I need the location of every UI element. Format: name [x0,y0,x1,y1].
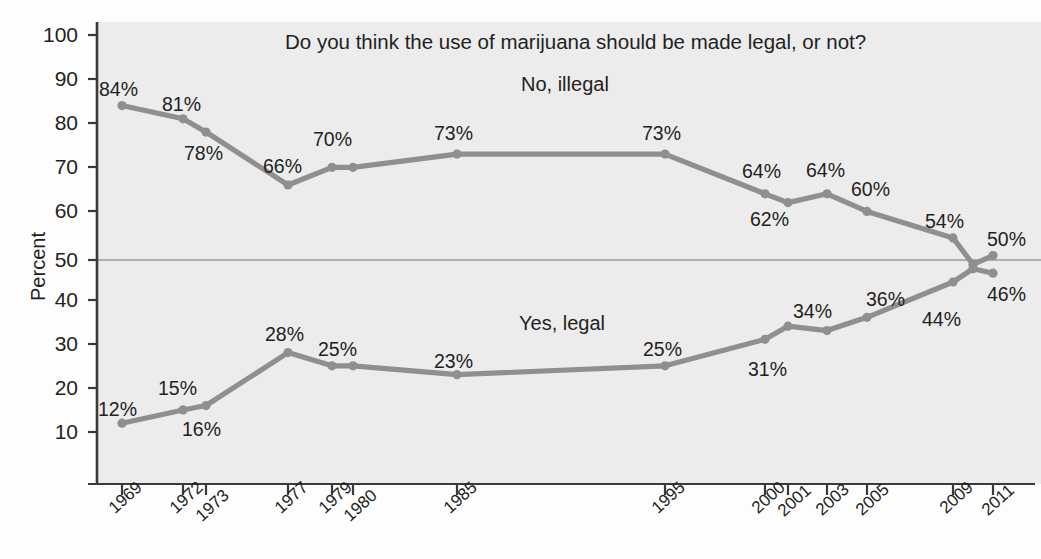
point-label: 16% [182,418,221,441]
data-point-marker [660,150,669,159]
point-label: 73% [642,122,681,145]
y-tick-label: 80 [18,111,78,135]
point-label: 23% [434,350,473,373]
data-point-marker [348,163,357,172]
y-tick-label: 10 [18,420,78,444]
data-point-marker [178,405,187,414]
point-label: 84% [99,78,138,101]
point-label: 46% [987,283,1026,306]
y-tick-label: 100 [18,23,78,47]
chart-title: Do you think the use of marijuana should… [285,30,866,54]
series-layer [117,101,997,428]
chart-figure: 100 90 80 70 60 50 40 30 20 10 Percent 1… [0,0,1041,559]
data-point-marker [862,207,871,216]
point-label: 25% [318,338,357,361]
data-point-marker [988,269,997,278]
data-point-marker [988,251,997,260]
data-point-marker [760,189,769,198]
series-label-yes-legal: Yes, legal [519,312,605,335]
data-point-marker [822,189,831,198]
y-axis-title: Percent [27,207,50,327]
data-point-marker [201,127,210,136]
point-label: 50% [987,228,1026,251]
point-label: 54% [925,210,964,233]
data-point-marker [783,322,792,331]
data-point-marker [283,180,292,189]
data-point-marker [348,361,357,370]
point-label: 60% [851,178,890,201]
data-point-marker [968,264,977,273]
point-label: 64% [742,160,781,183]
y-tick-label: 90 [18,67,78,91]
point-label: 28% [265,323,304,346]
point-label: 73% [434,122,473,145]
data-point-marker [452,150,461,159]
point-label: 36% [866,288,905,311]
point-label: 64% [806,159,845,182]
point-label: 44% [922,308,961,331]
series-label-no-illegal: No, illegal [521,73,609,96]
data-point-marker [760,335,769,344]
point-label: 70% [313,128,352,151]
data-point-marker [822,326,831,335]
point-label: 15% [158,377,197,400]
point-label: 78% [184,142,223,165]
line-yes-legal [122,269,993,423]
y-tick-label: 20 [18,376,78,400]
data-point-marker [948,233,957,242]
point-label: 62% [750,208,789,231]
x-tick-marks [122,484,993,495]
data-point-marker [948,277,957,286]
data-point-marker [660,361,669,370]
data-point-marker [327,163,336,172]
point-label: 25% [643,338,682,361]
data-point-marker [201,401,210,410]
point-label: 31% [748,358,787,381]
point-label: 34% [793,300,832,323]
data-point-marker [117,101,126,110]
y-tick-label: 30 [18,332,78,356]
point-label: 81% [162,93,201,116]
data-point-marker [327,361,336,370]
point-label: 66% [263,155,302,178]
y-tick-label: 70 [18,155,78,179]
data-point-marker [862,313,871,322]
data-point-marker [783,198,792,207]
point-label: 12% [98,398,137,421]
data-point-marker [283,348,292,357]
y-tick-marks [88,35,97,432]
